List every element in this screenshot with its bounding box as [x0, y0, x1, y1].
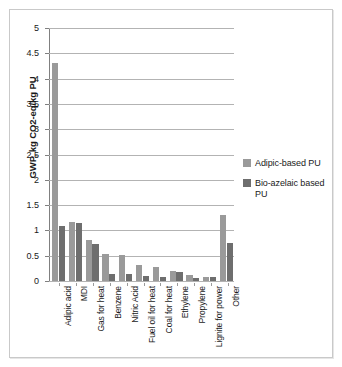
bar-group: [117, 28, 134, 281]
x-axis-category-label: Coal for heat: [164, 286, 174, 333]
y-axis-tick-label: 1: [34, 225, 39, 235]
bar: [227, 243, 233, 281]
legend-swatch-icon: [243, 179, 251, 187]
y-axis-tick: 1: [45, 230, 49, 231]
x-axis-tick: [76, 283, 77, 286]
y-axis-tick-label: 5: [34, 23, 39, 33]
bar-group: [168, 28, 185, 281]
bar-group: [50, 28, 67, 281]
bar: [119, 255, 125, 281]
legend-swatch-icon: [243, 159, 251, 167]
x-axis-tick: [127, 283, 128, 286]
x-axis-category-label: MDI: [79, 286, 89, 301]
y-axis-tick-label: 2: [34, 175, 39, 185]
bar-group: [218, 28, 235, 281]
y-axis-tick-label: 2.5: [26, 150, 39, 160]
x-axis-category-label: Fuel oil for heat: [147, 286, 157, 343]
bar-group: [201, 28, 218, 281]
bar: [92, 244, 98, 281]
x-axis-category-label: Lignite for power: [214, 286, 224, 347]
y-axis-tick: 2.5: [45, 155, 49, 156]
y-axis-tick: 0.5: [45, 256, 49, 257]
x-axis-tick: [228, 283, 229, 286]
y-axis-tick-label: 4.5: [26, 48, 39, 58]
y-axis-tick-label: 0: [34, 276, 39, 286]
x-axis-labels: Adipic acidMDIGas for heatBenzeneNitric …: [50, 283, 235, 359]
bar-group: [134, 28, 151, 281]
bar: [153, 267, 159, 281]
y-axis-tick-label: 0.5: [26, 251, 39, 261]
y-axis-tick-label: 3.5: [26, 99, 39, 109]
x-axis-category-label: Adipic acid: [63, 286, 73, 326]
x-axis-tick: [177, 283, 178, 286]
gridline: [49, 281, 234, 282]
y-axis-tick: 2: [45, 180, 49, 181]
y-axis-tick: 4: [45, 79, 49, 80]
y-axis-tick: 0: [45, 281, 49, 282]
chart-figure: GWP, kg CO2-eq/kg PU 54.543.532.521.510.…: [9, 9, 333, 358]
bar: [59, 226, 65, 281]
bar: [220, 215, 226, 281]
bar: [160, 277, 166, 281]
x-axis-category-label: Benzene: [113, 286, 123, 319]
legend-entry[interactable]: Bio-azelaic based PU: [243, 178, 333, 200]
x-axis-tick: [144, 283, 145, 286]
y-axis-tick: 1.5: [45, 205, 49, 206]
bar-group: [151, 28, 168, 281]
bar: [109, 274, 115, 281]
plot-area: 54.543.532.521.510.50: [49, 28, 234, 281]
bar-group: [84, 28, 101, 281]
bars-layer: [50, 28, 234, 281]
bar-group: [67, 28, 84, 281]
bar: [193, 278, 199, 281]
legend-label: Bio-azelaic based PU: [255, 178, 333, 200]
x-axis-tick: [194, 283, 195, 286]
y-axis-tick-label: 4: [34, 74, 39, 84]
bar: [69, 222, 75, 281]
y-axis-tick: 3: [45, 129, 49, 130]
x-axis-category-label: Nitric Acid: [130, 286, 140, 323]
legend-entry[interactable]: Adipic-based PU: [243, 158, 333, 169]
bar: [102, 254, 108, 281]
bar: [170, 271, 176, 281]
x-axis-tick: [160, 283, 161, 286]
bar: [126, 274, 132, 281]
bar: [76, 223, 82, 281]
bar: [143, 276, 149, 281]
bar: [86, 240, 92, 281]
y-axis-tick-label: 1.5: [26, 200, 39, 210]
bar: [136, 265, 142, 281]
bar: [52, 63, 58, 281]
x-axis-category-label: Propylene: [197, 286, 207, 323]
x-axis-tick: [211, 283, 212, 286]
x-axis-category-label: Ethylene: [180, 286, 190, 318]
bar: [203, 277, 209, 281]
y-axis-tick: 5: [45, 28, 49, 29]
x-axis-tick: [110, 283, 111, 286]
y-axis-tick-label: 3: [34, 124, 39, 134]
bar: [186, 275, 192, 281]
bar: [210, 277, 216, 281]
x-axis-category-label: Other: [231, 286, 241, 307]
bar-group: [100, 28, 117, 281]
x-axis-tick: [93, 283, 94, 286]
chart-legend: Adipic-based PUBio-azelaic based PU: [243, 158, 333, 209]
legend-label: Adipic-based PU: [255, 158, 321, 169]
y-axis-tick: 4.5: [45, 53, 49, 54]
x-axis-tick: [59, 283, 60, 286]
bar: [176, 272, 182, 281]
bar-group: [185, 28, 202, 281]
y-axis-tick: 3.5: [45, 104, 49, 105]
x-axis-category-label: Gas for heat: [96, 286, 106, 332]
